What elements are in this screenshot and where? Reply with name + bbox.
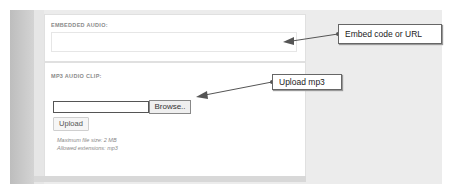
mp3-audio-clip-panel: MP3 AUDIO CLIP: Browse.. Upload Maximum …: [44, 62, 306, 178]
bottom-strip: [34, 176, 306, 182]
max-file-size-hint: Maximum file size: 2 MB: [57, 137, 117, 143]
embed-code-input[interactable]: [51, 32, 297, 52]
allowed-extensions-hint: Allowed extensions: mp3: [57, 145, 118, 151]
embedded-audio-panel: EMBEDDED AUDIO:: [44, 14, 306, 62]
embed-callout-label: Embed code or URL: [338, 24, 442, 44]
browse-button[interactable]: Browse..: [149, 100, 191, 114]
file-path-input[interactable]: [53, 101, 149, 113]
upload-button[interactable]: Upload: [53, 117, 89, 131]
inner-strip: [34, 10, 44, 184]
mp3-audio-clip-label: MP3 AUDIO CLIP:: [51, 73, 102, 79]
left-sidebar-bar: [10, 10, 34, 184]
embedded-audio-label: EMBEDDED AUDIO:: [51, 22, 108, 28]
upload-callout-label: Upload mp3: [272, 74, 342, 90]
